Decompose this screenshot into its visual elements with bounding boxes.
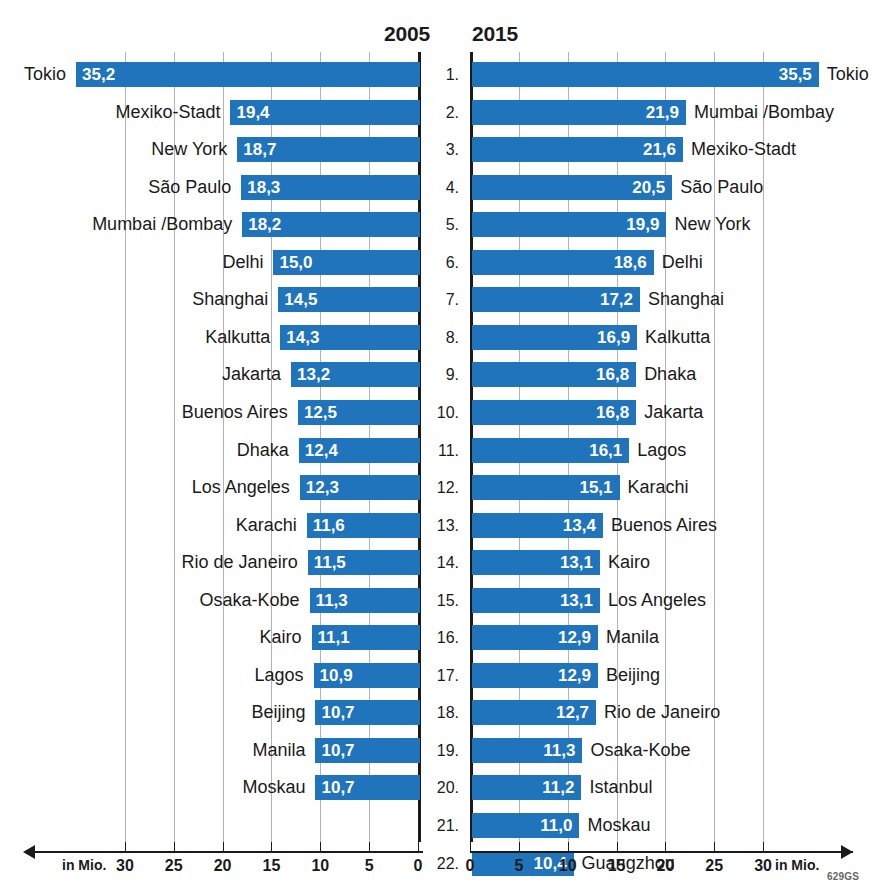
bar-2005-delhi[interactable]: 15,0 — [273, 250, 420, 275]
bar-row-2005[interactable]: 18,7 — [79, 137, 421, 162]
bar-row-2015[interactable]: 35,5 — [470, 62, 763, 87]
bar-2015-jakarta[interactable]: 16,8 — [472, 400, 636, 425]
bar-value-label: 13,4 — [563, 514, 596, 537]
bar-row-2015[interactable]: 16,8 — [470, 400, 763, 425]
bar-2005-lagos[interactable]: 10,9 — [314, 663, 420, 688]
bar-value-label: 11,0 — [540, 814, 572, 837]
x-tick-2005-0 — [418, 842, 419, 851]
x-tick-label-2015-0: 0 — [450, 857, 490, 875]
bar-row-2015[interactable]: 16,9 — [470, 325, 763, 350]
bar-2015-moskau[interactable]: 11,0 — [472, 813, 579, 838]
bar-2005-rio-de-janeiro[interactable]: 11,5 — [308, 550, 420, 575]
bar-value-label: 11,6 — [313, 514, 345, 537]
bar-2005-buenos-aires[interactable]: 12,5 — [298, 400, 420, 425]
x-tick-label-2005-15: 15 — [251, 857, 291, 875]
bar-row-2005[interactable]: 10,9 — [79, 663, 421, 688]
x-tick-2015-30 — [763, 842, 764, 851]
x-tick-2005-30 — [125, 842, 126, 851]
city-label-2015: Buenos Aires — [611, 513, 717, 538]
bar-value-label: 10,7 — [321, 739, 354, 762]
bar-2005-kalkutta[interactable]: 14,3 — [280, 325, 420, 350]
bar-2015-karachi[interactable]: 15,1 — [472, 475, 620, 500]
rank-number: 20. — [429, 775, 459, 800]
bar-row-2005[interactable]: 35,2 — [79, 62, 421, 87]
bar-2015-rio-de-janeiro[interactable]: 12,7 — [472, 700, 596, 725]
bar-2015-istanbul[interactable]: 11,2 — [472, 775, 581, 800]
city-label-2005: Beijing — [251, 700, 305, 725]
bar-2015-kairo[interactable]: 13,1 — [472, 550, 600, 575]
city-label-2005: Mumbai /Bombay — [92, 212, 232, 237]
bar-2015-lagos[interactable]: 16,1 — [472, 438, 629, 463]
bar-row-2015[interactable]: 16,8 — [470, 362, 763, 387]
x-tick-2005-25 — [174, 842, 175, 851]
rank-number: 16. — [429, 625, 459, 650]
bar-2005-manila[interactable]: 10,7 — [315, 738, 420, 763]
bar-2015-mexiko-stadt[interactable]: 21,6 — [472, 137, 683, 162]
bar-row-2015[interactable]: 18,6 — [470, 250, 763, 275]
gridline-2015-30 — [763, 52, 764, 842]
rank-number: 1. — [429, 62, 459, 87]
bar-row-2005[interactable]: 11,1 — [79, 625, 421, 650]
bar-value-label: 11,3 — [543, 739, 575, 762]
city-label-2015: Istanbul — [589, 775, 652, 800]
bar-2005-karachi[interactable]: 11,6 — [307, 513, 420, 538]
bar-2005-moskau[interactable]: 10,7 — [315, 775, 420, 800]
bar-2005-mexiko-stadt[interactable]: 19,4 — [230, 100, 420, 125]
bar-2005-jakarta[interactable]: 13,2 — [291, 362, 420, 387]
bar-row-2015[interactable]: 16,1 — [470, 438, 763, 463]
bar-row-2005[interactable]: 18,3 — [79, 175, 421, 200]
bar-2015-shanghai[interactable]: 17,2 — [472, 287, 640, 312]
bar-2005-dhaka[interactable]: 12,4 — [299, 438, 420, 463]
bar-row-2005[interactable]: 10,7 — [79, 738, 421, 763]
bar-row-2015[interactable]: 15,1 — [470, 475, 763, 500]
bar-2015-new-york[interactable]: 19,9 — [472, 212, 666, 237]
rank-number: 18. — [429, 700, 459, 725]
bar-2005-s-o-paulo[interactable]: 18,3 — [241, 175, 420, 200]
bar-2005-new-york[interactable]: 18,7 — [237, 137, 420, 162]
bar-2015-s-o-paulo[interactable]: 20,5 — [472, 175, 672, 200]
bar-row-2005[interactable]: 10,7 — [79, 700, 421, 725]
bar-value-label: 11,2 — [542, 776, 574, 799]
bar-2015-delhi[interactable]: 18,6 — [472, 250, 654, 275]
year-label-2015: 2015 — [472, 22, 518, 46]
bar-2015-beijing[interactable]: 12,9 — [472, 663, 598, 688]
bar-2015-buenos-aires[interactable]: 13,4 — [472, 513, 603, 538]
bar-2005-osaka-kobe[interactable]: 11,3 — [310, 588, 420, 613]
rank-number: 8. — [429, 325, 459, 350]
bar-2015-manila[interactable]: 12,9 — [472, 625, 598, 650]
bar-value-label: 35,2 — [82, 63, 115, 86]
rank-number: 10. — [429, 400, 459, 425]
bar-value-label: 35,5 — [779, 63, 812, 86]
bar-2015-dhaka[interactable]: 16,8 — [472, 362, 636, 387]
rank-number: 4. — [429, 175, 459, 200]
bar-2005-shanghai[interactable]: 14,5 — [278, 287, 420, 312]
city-label-2015: Karachi — [628, 475, 689, 500]
bar-value-label: 12,9 — [558, 664, 591, 687]
x-tick-label-2005-20: 20 — [203, 857, 243, 875]
bar-2005-los-angeles[interactable]: 12,3 — [300, 475, 420, 500]
year-label-2005: 2005 — [384, 22, 430, 46]
bar-2015-osaka-kobe[interactable]: 11,3 — [472, 738, 582, 763]
x-tick-2015-25 — [714, 842, 715, 851]
bar-2005-mumbai-bombay[interactable]: 18,2 — [242, 212, 420, 237]
rank-number: 2. — [429, 100, 459, 125]
city-label-2005: Lagos — [254, 663, 303, 688]
bar-2005-beijing[interactable]: 10,7 — [315, 700, 420, 725]
bar-2015-kalkutta[interactable]: 16,9 — [472, 325, 637, 350]
x-tick-label-2015-5: 5 — [499, 857, 539, 875]
bar-value-label: 14,5 — [284, 288, 317, 311]
bar-value-label: 11,1 — [318, 626, 350, 649]
city-label-2005: Karachi — [236, 513, 297, 538]
x-tick-2015-20 — [665, 842, 666, 851]
bar-value-label: 21,9 — [646, 101, 679, 124]
rank-number: 21. — [429, 813, 459, 838]
bar-2015-los-angeles[interactable]: 13,1 — [472, 588, 600, 613]
bar-2005-kairo[interactable]: 11,1 — [312, 625, 420, 650]
rank-number: 13. — [429, 513, 459, 538]
bar-2005-tokio[interactable]: 35,2 — [76, 62, 420, 87]
bar-value-label: 12,7 — [556, 701, 589, 724]
bar-value-label: 16,8 — [596, 363, 629, 386]
bar-value-label: 16,1 — [589, 439, 622, 462]
bar-2015-mumbai-bombay[interactable]: 21,9 — [472, 100, 686, 125]
bar-2015-tokio[interactable]: 35,5 — [472, 62, 819, 87]
